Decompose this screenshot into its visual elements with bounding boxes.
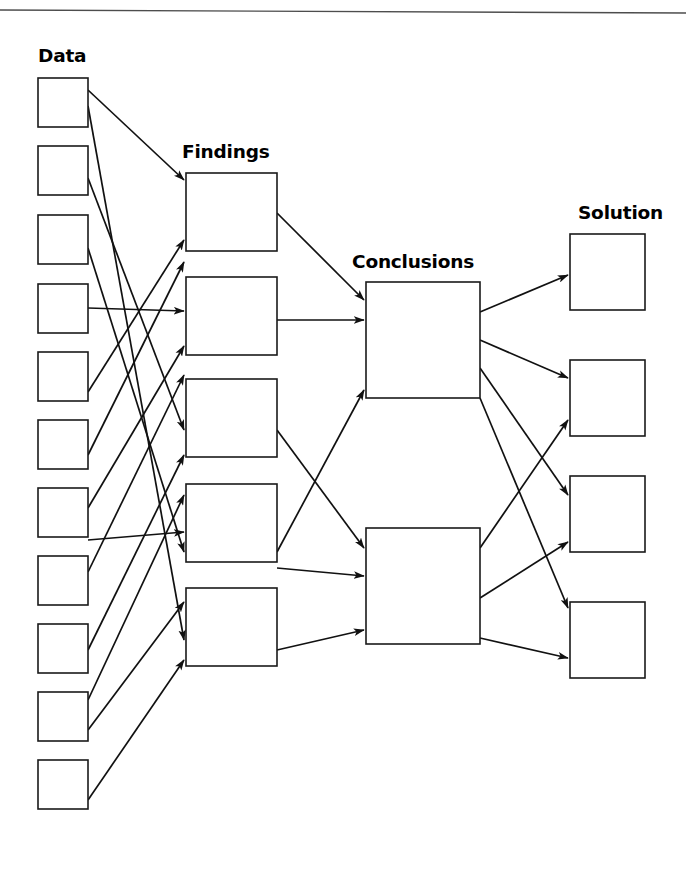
edge-f5-to-c2	[277, 630, 364, 650]
edge-f3-to-c2	[277, 430, 364, 548]
node-box-d5[interactable]	[38, 352, 88, 401]
node-box-d10[interactable]	[38, 692, 88, 741]
node-box-d11[interactable]	[38, 760, 88, 809]
node-box-c2[interactable]	[366, 528, 480, 644]
node-box-f1[interactable]	[186, 173, 277, 251]
node-box-s4[interactable]	[570, 602, 645, 678]
edge-d10-to-f4	[88, 495, 184, 700]
edge-d8-to-f2	[88, 375, 184, 572]
node-box-c1[interactable]	[366, 282, 480, 398]
column-label-solution: Solution	[578, 202, 663, 223]
column-label-findings: Findings	[182, 141, 270, 162]
edge-c1-to-s2	[480, 340, 568, 378]
edge-d4-to-f2	[88, 308, 184, 311]
edge-d3-to-f4	[88, 248, 184, 552]
node-box-d2[interactable]	[38, 146, 88, 195]
edge-f4-to-c1	[277, 390, 364, 552]
edge-c2-to-s4	[480, 638, 568, 658]
column-label-conclusions: Conclusions	[352, 251, 474, 272]
top-rule-layer	[0, 10, 686, 13]
edge-d7-to-f4	[88, 532, 184, 540]
node-box-d8[interactable]	[38, 556, 88, 605]
node-box-d7[interactable]	[38, 488, 88, 537]
top-rule	[0, 10, 686, 13]
node-box-s3[interactable]	[570, 476, 645, 552]
node-box-s1[interactable]	[570, 234, 645, 310]
node-box-f3[interactable]	[186, 379, 277, 457]
node-box-f4[interactable]	[186, 484, 277, 562]
node-box-s2[interactable]	[570, 360, 645, 436]
edge-d1-to-f1	[88, 90, 184, 180]
edge-d11-to-f5	[88, 660, 184, 800]
edge-d1-to-f5	[88, 106, 184, 640]
edge-f4-to-c2	[277, 568, 364, 576]
edge-layer	[88, 90, 568, 800]
edge-c2-to-s2	[480, 420, 568, 548]
edge-d2-to-f3	[88, 178, 184, 430]
node-box-d9[interactable]	[38, 624, 88, 673]
flow-diagram: DataFindingsConclusionsSolution	[0, 0, 686, 896]
node-layer	[38, 78, 645, 809]
node-box-f5[interactable]	[186, 588, 277, 666]
diagram-canvas: DataFindingsConclusionsSolution	[0, 0, 686, 896]
node-box-d1[interactable]	[38, 78, 88, 127]
edge-c1-to-s1	[480, 275, 568, 312]
edge-c2-to-s3	[480, 542, 568, 598]
node-box-d3[interactable]	[38, 215, 88, 264]
node-box-d4[interactable]	[38, 284, 88, 333]
edge-c1-to-s4	[480, 398, 568, 608]
edge-f1-to-c1	[277, 213, 364, 300]
column-label-data: Data	[38, 45, 86, 66]
node-box-d6[interactable]	[38, 420, 88, 469]
node-box-f2[interactable]	[186, 277, 277, 355]
